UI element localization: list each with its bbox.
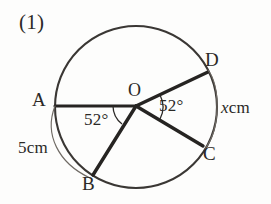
angle-label-doc: 52° bbox=[159, 97, 184, 114]
arc-length-label-dc: xcm bbox=[221, 99, 250, 116]
geometry-figure: (1) A B C D O 52° 52° 5cm xcm bbox=[0, 0, 271, 204]
point-label-a: A bbox=[32, 90, 46, 109]
arc-length-label-ab: 5cm bbox=[18, 139, 48, 156]
problem-number-label: (1) bbox=[19, 12, 44, 33]
arc-length-variable-x: x bbox=[221, 98, 229, 117]
center-label-o: O bbox=[128, 81, 141, 99]
arc-length-unit-cm: cm bbox=[229, 98, 250, 117]
angle-label-aob: 52° bbox=[84, 111, 109, 128]
angle-arc-aob bbox=[113, 106, 122, 124]
point-label-c: C bbox=[203, 144, 216, 163]
point-label-d: D bbox=[205, 50, 219, 69]
point-label-b: B bbox=[82, 174, 95, 193]
